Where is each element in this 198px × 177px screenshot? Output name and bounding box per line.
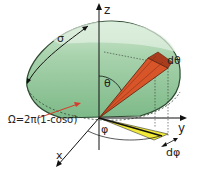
- dphi-label: dφ: [166, 147, 180, 158]
- axis-label-z: z: [104, 4, 110, 16]
- solid-angle-formula: Ω=2π(1-cosσ): [8, 115, 77, 125]
- dtheta-label: dθ: [167, 55, 181, 66]
- sigma-label: σ: [57, 33, 64, 44]
- axis-label-x: x: [56, 150, 63, 161]
- phi-label: φ: [101, 124, 108, 135]
- theta-label: θ: [104, 78, 111, 89]
- axis-label-y: y: [178, 122, 185, 134]
